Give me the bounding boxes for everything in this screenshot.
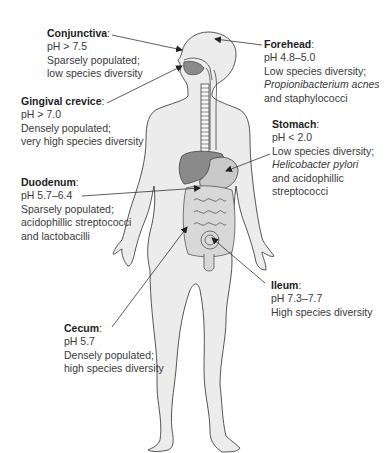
label-line: Low species diversity; — [264, 65, 380, 78]
label-gingival-crevice: Gingival crevice: pH > 7.0 Densely popul… — [21, 95, 144, 149]
label-title: Cecum — [64, 322, 99, 334]
label-line: very high species diversity — [21, 135, 144, 148]
label-title: Stomach — [272, 118, 316, 130]
label-line: high species diversity — [64, 362, 164, 375]
label-line: Densely populated; — [21, 122, 144, 135]
label-conjunctiva: Conjunctiva: pH > 7.5 Sparsely populated… — [47, 27, 143, 81]
label-cecum: Cecum: pH 5.7 Densely populated; high sp… — [64, 322, 164, 376]
label-line: Sparsely populated; — [47, 54, 143, 67]
label-line: and lactobacilli — [21, 230, 131, 243]
label-ph: pH < 2.0 — [272, 131, 374, 144]
label-duodenum: Duodenum: pH 5.7–6.4 Sparsely populated;… — [21, 176, 131, 243]
label-line: streptococci — [272, 185, 374, 198]
label-line-italic: Propionibacterium acnes — [264, 78, 380, 91]
label-line: low species diversity — [47, 67, 143, 80]
label-line: Densely populated; — [64, 349, 164, 362]
label-ph: pH > 7.0 — [21, 108, 144, 121]
label-ph: pH > 7.5 — [47, 40, 143, 53]
label-title: Duodenum — [21, 176, 76, 188]
label-line: High species diversity — [271, 306, 373, 319]
label-ph: pH 4.8–5.0 — [264, 51, 380, 64]
label-line: Low species diversity; — [272, 145, 374, 158]
label-line: and staphylococci — [264, 92, 380, 105]
label-ph: pH 5.7–6.4 — [21, 189, 131, 202]
label-title: Conjunctiva — [47, 27, 107, 39]
label-line: Sparsely populated; — [21, 203, 131, 216]
label-title: Forehead — [264, 38, 311, 50]
label-line-italic: Helicobacter pylori — [272, 158, 374, 171]
label-ileum: Ileum: pH 7.3–7.7 High species diversity — [271, 279, 373, 319]
label-ph: pH 5.7 — [64, 335, 164, 348]
label-title: Gingival crevice — [21, 95, 102, 107]
label-line: and acidophillic — [272, 172, 374, 185]
label-stomach: Stomach: pH < 2.0 Low species diversity;… — [272, 118, 374, 198]
label-ph: pH 7.3–7.7 — [271, 292, 373, 305]
label-title: Ileum — [271, 279, 298, 291]
label-line: acidophillic streptococci — [21, 216, 131, 229]
label-forehead: Forehead: pH 4.8–5.0 Low species diversi… — [264, 38, 380, 105]
